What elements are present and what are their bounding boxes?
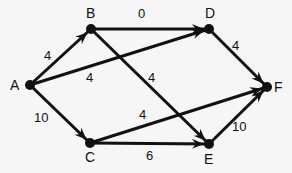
node-a [25, 80, 35, 90]
edge-weight-label: 4 [232, 38, 239, 53]
node-label-d: D [205, 5, 215, 21]
node-d [204, 24, 214, 34]
edge-weight-label: 4 [44, 48, 51, 63]
node-label-c: C [85, 149, 95, 165]
edge-weight-label: 10 [232, 119, 246, 134]
edge-weight-label: 10 [34, 110, 48, 125]
edge-c-e [90, 143, 209, 144]
node-label-f: F [274, 79, 283, 95]
node-e [204, 139, 214, 149]
node-f [262, 82, 272, 92]
edge-weight-label: 4 [148, 70, 155, 85]
edge-weight-label: 4 [86, 70, 93, 85]
edge-weight-label: 0 [138, 6, 145, 21]
node-b [86, 24, 96, 34]
node-label-b: B [86, 5, 95, 21]
edge-weight-label: 4 [139, 107, 146, 122]
directed-graph: 44100444610ABCDEF [0, 0, 292, 173]
node-c [85, 138, 95, 148]
edge-weight-label: 6 [146, 148, 153, 163]
node-label-a: A [10, 77, 20, 93]
node-label-e: E [204, 151, 213, 167]
